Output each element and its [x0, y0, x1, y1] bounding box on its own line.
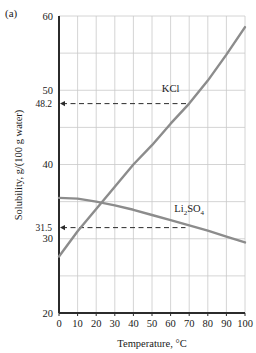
y-tick-label: 60	[43, 11, 54, 22]
x-tick-label: 30	[110, 318, 121, 329]
x-tick-label: 100	[237, 318, 253, 329]
x-axis-title: Temperature, °C	[117, 338, 186, 349]
x-tick-label: 50	[147, 318, 158, 329]
chart-gridlines	[59, 16, 245, 313]
reference-line-arrowhead	[60, 101, 65, 106]
x-tick-label: 70	[184, 318, 195, 329]
x-tick-label: 20	[91, 318, 102, 329]
y-tick-label: 20	[43, 308, 54, 319]
y-tick-label-special: 48.2	[35, 99, 52, 109]
figure-container: (a) 0102030405060708090100 203040506048.…	[0, 0, 256, 353]
x-tick-label: 60	[165, 318, 176, 329]
reference-line-arrowhead	[60, 225, 65, 230]
x-tick-label: 80	[203, 318, 214, 329]
solubility-chart: 0102030405060708090100 203040506048.231.…	[0, 0, 256, 353]
y-tick-label: 30	[43, 233, 54, 244]
y-axis-title: Solubility, g/(100 g water)	[13, 109, 25, 220]
y-tick-label: 50	[43, 85, 54, 96]
y-tick-label-special: 31.5	[35, 223, 52, 233]
series-label-KCl: KCl	[162, 83, 180, 94]
y-axis-ticks: 203040506048.231.5	[35, 11, 53, 319]
y-tick-label: 40	[43, 159, 54, 170]
x-tick-label: 10	[72, 318, 83, 329]
x-tick-label: 0	[56, 318, 61, 329]
series-inline-labels: KClLi2SO4	[162, 83, 205, 217]
x-tick-label: 40	[128, 318, 139, 329]
x-axis-ticks: 0102030405060708090100	[56, 313, 253, 329]
x-tick-label: 90	[221, 318, 232, 329]
reference-lines	[60, 101, 189, 230]
